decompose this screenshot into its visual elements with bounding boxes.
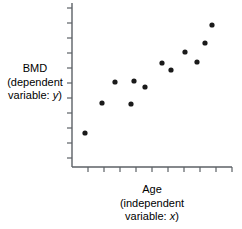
- x-axis-label-line-2: (independent: [88, 197, 216, 211]
- x-axis-label-prefix: variable:: [125, 210, 170, 222]
- x-axis-label: Age (independent variable: x): [88, 183, 216, 224]
- scatter-point: [142, 84, 147, 89]
- scatter-point: [182, 49, 187, 54]
- scatter-point: [128, 101, 133, 106]
- scatter-point: [202, 40, 207, 45]
- scatter-point: [82, 130, 87, 135]
- axes-group: [72, 3, 232, 167]
- scatter-points-group: [82, 22, 214, 135]
- x-axis-ticks: [88, 167, 232, 172]
- y-axis-label-suffix: ): [58, 89, 62, 101]
- x-axis-label-line-3: variable: x): [88, 210, 216, 224]
- scatter-point: [159, 60, 164, 65]
- scatter-point: [209, 22, 214, 27]
- y-axis-label-line-2: (dependent: [2, 76, 68, 90]
- x-axis-label-line-1: Age: [88, 183, 216, 197]
- scatter-point: [194, 59, 199, 64]
- y-axis-label-prefix: variable:: [8, 89, 53, 101]
- scatter-point: [99, 100, 104, 105]
- y-axis-label: BMD (dependent variable: y): [2, 62, 68, 103]
- x-axis-label-suffix: ): [175, 210, 179, 222]
- scatter-point: [168, 67, 173, 72]
- scatter-point: [131, 78, 136, 83]
- scatter-chart-figure: BMD (dependent variable: y) Age (indepen…: [0, 0, 242, 229]
- y-axis-label-line-3: variable: y): [2, 89, 68, 103]
- y-axis-label-line-1: BMD: [2, 62, 68, 76]
- scatter-point: [112, 79, 117, 84]
